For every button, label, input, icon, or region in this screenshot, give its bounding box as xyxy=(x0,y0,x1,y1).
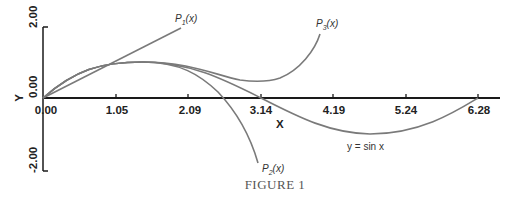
x-tick-label: 2.09 xyxy=(179,104,201,116)
x-tick-label: 5.24 xyxy=(395,104,418,116)
svg-text:P2(x): P2(x) xyxy=(262,163,284,176)
y-axis-title: Y xyxy=(13,94,25,102)
x-tick-label: 1.05 xyxy=(106,104,129,116)
curve-p3 xyxy=(43,34,320,98)
svg-text:P1(x): P1(x) xyxy=(175,13,197,26)
x-tick-label: 0.00 xyxy=(35,104,57,116)
y-tick-label: 0.00 xyxy=(27,76,39,98)
label-p1: P1(x) xyxy=(175,13,197,26)
x-tick-label: 6.28 xyxy=(468,104,491,116)
y-tick-label: -2.00 xyxy=(27,147,39,173)
figure-caption: FIGURE 1 xyxy=(245,177,306,192)
y-tick-label: 2.00 xyxy=(27,6,39,28)
x-tick-label: 4.19 xyxy=(323,104,345,116)
x-axis-title: X xyxy=(276,118,284,130)
x-tick-label: 3.14 xyxy=(250,104,273,116)
label-p3: P3(x) xyxy=(316,18,338,31)
svg-text:P3(x): P3(x) xyxy=(316,18,338,31)
label-sin: y = sin x xyxy=(347,141,384,152)
figure-chart: 0.00 1.05 2.09 3.14 4.19 5.24 6.28 2.00 … xyxy=(0,0,512,199)
label-p2: P2(x) xyxy=(262,163,284,176)
